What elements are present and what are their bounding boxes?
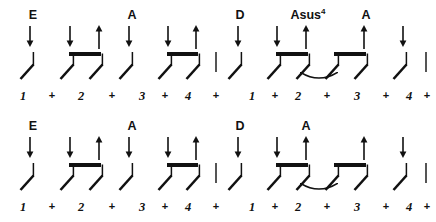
beat-count-number: 3 bbox=[139, 201, 145, 214]
beat-count-and: + bbox=[383, 201, 389, 212]
beat-count-and: + bbox=[162, 201, 168, 212]
beat-count-number: 3 bbox=[354, 90, 360, 103]
strumming-pattern-sheet: EADAsus4A1+2+3+4+1+2+3+4+EADA1+2+3+4+1+2… bbox=[0, 0, 436, 222]
beat-count-and: + bbox=[424, 90, 430, 101]
beat-count-number: 4 bbox=[406, 201, 412, 214]
beat-count-layer: 1+2+3+4+1+2+3+4+ bbox=[0, 0, 436, 111]
notation-system: EADAsus4A1+2+3+4+1+2+3+4+ bbox=[0, 0, 436, 111]
beat-count-and: + bbox=[162, 90, 168, 101]
beat-count-number: 4 bbox=[406, 90, 412, 103]
beat-count-and: + bbox=[324, 90, 330, 101]
beat-count-number: 3 bbox=[354, 201, 360, 214]
beat-count-and: + bbox=[49, 90, 55, 101]
beat-count-and: + bbox=[424, 201, 430, 212]
beat-count-and: + bbox=[213, 90, 219, 101]
beat-count-number: 1 bbox=[20, 201, 26, 214]
beat-count-and: + bbox=[109, 201, 115, 212]
beat-count-and: + bbox=[109, 90, 115, 101]
beat-count-number: 3 bbox=[139, 90, 145, 103]
beat-count-and: + bbox=[324, 201, 330, 212]
beat-count-and: + bbox=[272, 201, 278, 212]
notation-system: EADA1+2+3+4+1+2+3+4+ bbox=[0, 111, 436, 222]
beat-count-number: 1 bbox=[249, 90, 255, 103]
beat-count-number: 1 bbox=[20, 90, 26, 103]
beat-count-number: 4 bbox=[185, 201, 191, 214]
beat-count-layer: 1+2+3+4+1+2+3+4+ bbox=[0, 111, 436, 222]
beat-count-number: 1 bbox=[249, 201, 255, 214]
beat-count-and: + bbox=[383, 90, 389, 101]
beat-count-number: 2 bbox=[78, 90, 84, 103]
beat-count-number: 2 bbox=[295, 90, 301, 103]
beat-count-number: 4 bbox=[185, 90, 191, 103]
beat-count-and: + bbox=[49, 201, 55, 212]
beat-count-and: + bbox=[272, 90, 278, 101]
beat-count-and: + bbox=[213, 201, 219, 212]
beat-count-number: 2 bbox=[78, 201, 84, 214]
beat-count-number: 2 bbox=[295, 201, 301, 214]
